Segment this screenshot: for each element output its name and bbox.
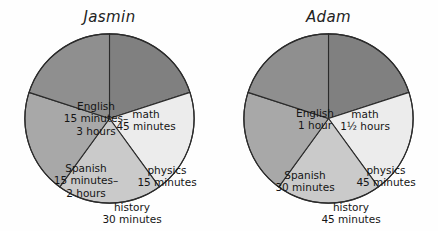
pie-area-adam: math1½ hoursphysics45 minuteshistory45 m… [243, 33, 414, 204]
pie-chart-adam: Adam math1½ hoursphysics45 minuteshistor… [219, 0, 438, 231]
chart-title-jasmin: Jasmin [0, 8, 219, 26]
pie-svg-jasmin [24, 33, 195, 204]
slice-label-history: history45 minutes [321, 201, 380, 226]
slice-label-line: 30 minutes [102, 213, 161, 225]
pie-chart-jasmin: Jasmin math45 minutesphysics15 minuteshi… [0, 0, 219, 231]
slice-label-line: 45 minutes [321, 213, 380, 225]
pie-slices-jasmin [25, 34, 194, 203]
pie-area-jasmin: math45 minutesphysics15 minuteshistory30… [24, 33, 195, 204]
figure-canvas: Jasmin math45 minutesphysics15 minuteshi… [0, 0, 438, 231]
pie-svg-adam [243, 33, 414, 204]
chart-title-adam: Adam [219, 8, 438, 26]
slice-label-history: history30 minutes [102, 201, 161, 226]
pie-slices-adam [244, 34, 413, 203]
